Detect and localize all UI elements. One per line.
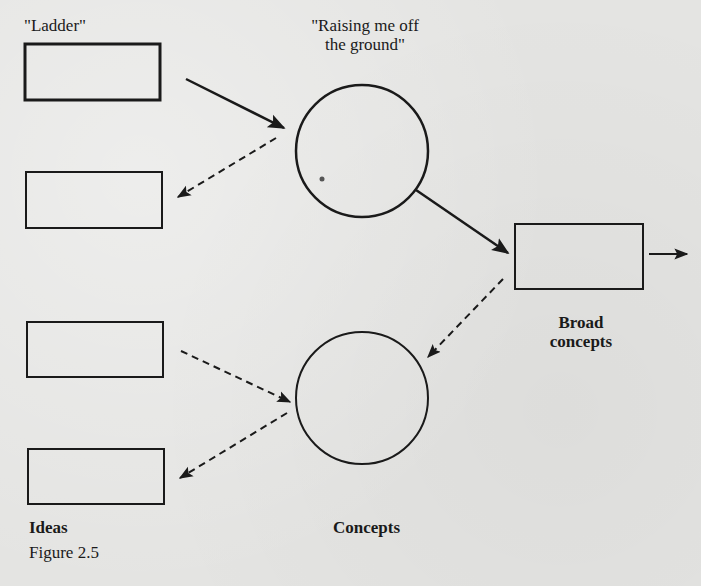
ladder-label: "Ladder" <box>24 16 86 35</box>
raising-label: "Raising me off the ground" <box>300 16 430 54</box>
lower-left-box <box>27 322 163 377</box>
figure-caption: Figure 2.5 <box>29 543 99 562</box>
speck-dot <box>320 177 325 182</box>
ideas-label: Ideas <box>29 518 68 537</box>
arrow-concepts-to-ideas <box>180 413 287 478</box>
arrow-lowerleft-to-concepts <box>181 351 290 402</box>
concepts-label: Concepts <box>333 518 400 537</box>
upper-left-box <box>26 172 162 228</box>
arrow-broad-to-concepts <box>428 279 503 357</box>
arrow-raising-to-broad <box>416 190 508 253</box>
ideas-box <box>28 449 164 504</box>
arrow-raising-to-upper-left <box>178 138 276 197</box>
broad-concepts-box <box>515 224 643 289</box>
concepts-circle <box>296 332 428 464</box>
ladder-box <box>25 44 160 100</box>
figure-page: "Ladder" "Raising me off the ground" Bro… <box>0 0 701 586</box>
broad-concepts-label: Broad concepts <box>536 313 626 351</box>
arrow-ladder-to-raising <box>186 79 284 128</box>
raising-circle <box>296 85 428 217</box>
concept-ladder-diagram <box>0 0 701 586</box>
